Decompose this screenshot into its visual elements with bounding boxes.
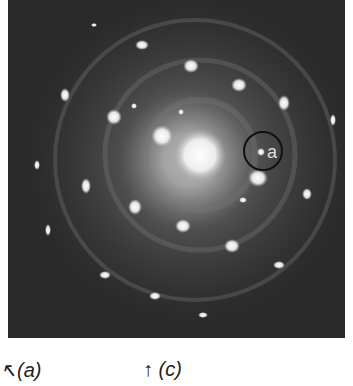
diffraction-spot <box>224 239 240 253</box>
diffraction-spot <box>175 219 191 233</box>
diffraction-spot <box>60 88 70 102</box>
central-beam <box>174 129 226 181</box>
diffraction-spot <box>257 148 265 156</box>
diffraction-spot <box>99 271 111 279</box>
diffraction-spot <box>151 125 173 147</box>
diffraction-spot <box>128 199 142 215</box>
diffraction-spot <box>149 292 161 300</box>
diffraction-spot <box>302 188 312 200</box>
diffraction-spot <box>278 95 290 111</box>
diffraction-spot <box>81 178 91 194</box>
diffraction-spot <box>178 109 184 115</box>
diffraction-spot <box>91 23 97 27</box>
diffraction-pattern-image: a <box>8 0 345 338</box>
diffraction-spot <box>45 224 51 236</box>
diffraction-spot <box>135 40 149 50</box>
diffraction-spot <box>273 261 285 269</box>
diffraction-spot <box>183 59 199 73</box>
diffraction-spot <box>231 78 247 92</box>
diffraction-spot <box>239 197 247 203</box>
diffraction-spot <box>131 103 137 109</box>
diffraction-spot <box>106 109 122 125</box>
diffraction-spot <box>330 114 336 126</box>
diffraction-svg: a <box>8 0 345 338</box>
diffraction-spot <box>34 160 40 170</box>
annotation-label: a <box>267 142 278 162</box>
caption-a: ↖(a) <box>0 358 41 382</box>
diffraction-spot <box>198 312 208 318</box>
diffraction-spot <box>248 169 268 187</box>
caption-c: ↑ (c) <box>143 358 182 381</box>
